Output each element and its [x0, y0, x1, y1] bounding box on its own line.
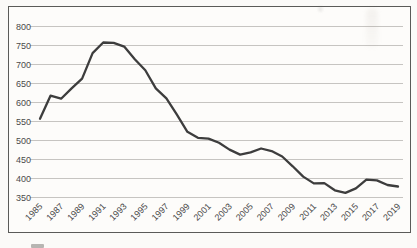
- y-tick-label: 400: [16, 174, 31, 184]
- y-tick-label: 750: [16, 41, 31, 51]
- y-tick-label: 650: [16, 79, 31, 89]
- y-tick-label: 550: [16, 117, 31, 127]
- y-tick-label: 500: [16, 136, 31, 146]
- y-tick-label: 350: [16, 193, 31, 203]
- y-tick-label: 600: [16, 98, 31, 108]
- y-tick-label: 700: [16, 60, 31, 70]
- chart-page: 8007507006506005505004504003501985198719…: [0, 0, 417, 248]
- y-tick-label: 800: [16, 22, 31, 32]
- line-chart: 8007507006506005505004504003501985198719…: [0, 0, 417, 248]
- cutoff-caption-fragment: [31, 244, 44, 248]
- chart-frame-border: [9, 7, 411, 233]
- y-tick-label: 450: [16, 155, 31, 165]
